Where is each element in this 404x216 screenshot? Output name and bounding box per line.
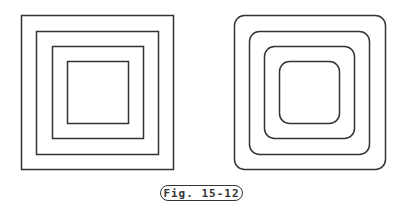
- figure-canvas: [0, 0, 404, 216]
- rounded-square-3: [265, 47, 355, 139]
- sharp-square-3: [53, 47, 144, 139]
- rounded-squares-group: [235, 16, 386, 170]
- figure-caption: Fig. 15-12: [160, 185, 243, 201]
- rounded-square-4: [280, 62, 340, 124]
- rounded-square-1: [235, 16, 386, 170]
- sharp-squares-group: [22, 16, 174, 170]
- sharp-square-1: [22, 16, 174, 170]
- sharp-square-2: [37, 32, 159, 155]
- sharp-square-4: [68, 62, 129, 124]
